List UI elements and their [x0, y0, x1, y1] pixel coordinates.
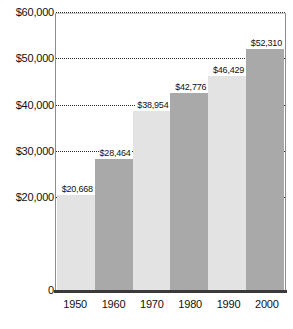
x-axis-tick-label-1970: 1970 [133, 298, 171, 310]
x-axis-tick-label-2000: 2000 [248, 298, 286, 310]
plot-area: $20,668$28,464$38,954$42,776$46,429$52,3… [55, 13, 286, 291]
bar-value-label-1990: $46,429 [212, 65, 245, 75]
bar-slot: $20,668 [57, 14, 95, 291]
bar-chart-figure: $60,000$50,000$40,000$30,000$20,0000 $20… [0, 0, 293, 329]
bar-1970 [133, 111, 171, 291]
bar-value-label-1970: $38,954 [136, 100, 169, 110]
y-axis-tick-label: $20,000 [0, 192, 54, 203]
bar-slot: $38,954 [133, 14, 171, 291]
bar-1990 [208, 76, 246, 291]
y-axis-tick-label: $40,000 [0, 100, 54, 111]
bar-1980 [170, 93, 208, 291]
x-axis-tick-label-1960: 1960 [94, 298, 132, 310]
y-axis-tick-label: $60,000 [0, 7, 54, 18]
x-axis-tick-label-1990: 1990 [209, 298, 247, 310]
bar-1960 [95, 159, 133, 291]
x-axis-tick-labels: 195019601970198019902000 [56, 298, 286, 310]
y-axis-tick-label: 0 [0, 285, 54, 296]
x-axis-tick-label-1950: 1950 [56, 298, 94, 310]
gridline [56, 12, 285, 13]
bar-value-label-1980: $42,776 [174, 82, 207, 92]
bar-slot: $42,776 [170, 14, 208, 291]
bar-series: $20,668$28,464$38,954$42,776$46,429$52,3… [57, 14, 284, 291]
bar-slot: $52,310 [246, 14, 284, 291]
y-axis-tick-label: $50,000 [0, 53, 54, 64]
x-axis-tick-label-1980: 1980 [171, 298, 209, 310]
caption-remnant [6, 321, 286, 329]
bar-1950 [57, 195, 95, 291]
bar-slot: $46,429 [208, 14, 246, 291]
bar-2000 [246, 49, 284, 291]
y-axis-tick-label: $30,000 [0, 146, 54, 157]
bar-value-label-1960: $28,464 [99, 148, 132, 158]
bar-value-label-1950: $20,668 [61, 184, 94, 194]
bar-slot: $28,464 [95, 14, 133, 291]
x-axis-line [54, 290, 287, 293]
bar-value-label-2000: $52,310 [250, 38, 283, 48]
